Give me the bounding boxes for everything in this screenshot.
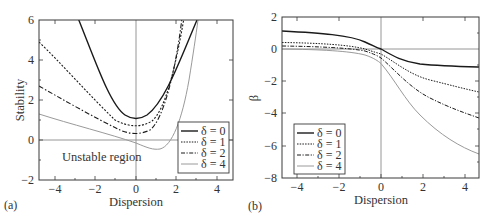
x-tick-label: −2	[89, 182, 102, 196]
legend-b: δ = 0 δ = 1 δ = 2 δ = 4	[294, 124, 345, 174]
panel-label-b: (b)	[248, 199, 262, 213]
curve-delta-2	[282, 46, 479, 118]
x-tick-label: 4	[462, 180, 468, 194]
y-tick-label: −2	[264, 74, 277, 88]
y-tick-label: 2	[271, 10, 277, 24]
y-tick-label: 6	[28, 13, 34, 27]
x-tick-label: −4	[49, 182, 62, 196]
x-tick-label: 2	[173, 182, 179, 196]
y-tick-label: 0	[271, 42, 277, 56]
chart-b: −4 −2 0 2 4 −8 −6 −4 −2 0 2 Dispersion β…	[247, 10, 479, 213]
x-tick-label: 0	[378, 180, 384, 194]
x-tick-label: 0	[133, 182, 139, 196]
x-tick-label: −4	[291, 180, 304, 194]
y-tick-label: 0	[28, 133, 34, 147]
x-axis-title-a: Dispersion	[109, 195, 164, 209]
y-tick-label: −2	[21, 173, 34, 187]
y-tick-label: 2	[28, 93, 34, 107]
legend-item-delta-4: δ = 4	[201, 157, 225, 171]
y-tick-label: −8	[264, 171, 277, 185]
figure: −4 −2 0 2 4 −2 0 2 4 6 Dispersion Stabil…	[0, 0, 493, 219]
y-axis-title-a: Stability	[13, 78, 27, 121]
x-tick-label: 4	[214, 182, 220, 196]
y-axis-title-b: β	[247, 95, 261, 101]
x-tick-label: 2	[420, 180, 426, 194]
chart-a: −4 −2 0 2 4 −2 0 2 4 6 Dispersion Stabil…	[4, 13, 233, 212]
x-tick-label: −2	[333, 180, 346, 194]
y-tick-label: −4	[264, 106, 277, 120]
legend-a: δ = 0 δ = 1 δ = 2 δ = 4	[178, 122, 229, 173]
curve-delta-4	[39, 20, 198, 149]
x-axis-title-b: Dispersion	[354, 193, 409, 207]
legend-item-delta-4: δ = 4	[317, 159, 341, 173]
y-tick-label: −6	[264, 139, 277, 153]
panel-label-a: (a)	[4, 198, 17, 212]
curve-delta-0	[78, 18, 197, 119]
unstable-region-label: Unstable region	[62, 150, 142, 164]
y-tick-label: 4	[28, 53, 34, 67]
